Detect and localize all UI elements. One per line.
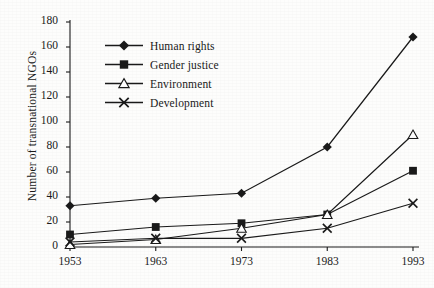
x-tick-label: 1993 [388,255,434,267]
y-tick-label: 80 [30,139,58,151]
data-point-diamond [151,194,160,203]
y-tick-label: 160 [30,39,58,51]
y-tick-label: 0 [30,239,58,251]
data-point-diamond [65,201,74,210]
legend-item-human-rights: Human rights [104,36,219,55]
data-point-square [152,223,160,231]
data-point-triangle [408,130,418,138]
y-tick-label: 120 [30,89,58,101]
x-tick-label: 1963 [131,255,181,267]
legend-label-human-rights: Human rights [150,40,215,52]
data-point-x [409,199,418,208]
y-tick-label: 40 [30,189,58,201]
legend-marker-x-icon [104,93,144,112]
y-tick-label: 100 [30,114,58,126]
legend-item-environment: Environment [104,74,219,93]
legend-item-development: Development [104,93,219,112]
legend-label-gender-justice: Gender justice [150,59,219,71]
y-tick-label: 180 [30,14,58,26]
chart-legend: Human rights Gender justice Environment … [104,36,219,112]
data-point-diamond [237,189,246,198]
x-tick-label: 1983 [302,255,352,267]
data-point-square [409,167,417,175]
x-tick-label: 1973 [217,255,267,267]
y-tick-label: 60 [30,164,58,176]
x-tick-label: 1953 [45,255,95,267]
y-tick-label: 140 [30,64,58,76]
y-tick-label: 20 [30,214,58,226]
legend-item-gender-justice: Gender justice [104,55,219,74]
chart-figure: Number of transnational NGOs Human right… [0,0,434,288]
legend-marker-square-icon [104,55,144,74]
legend-marker-diamond-icon [104,36,144,55]
data-point-square [66,231,74,239]
legend-label-development: Development [150,97,214,109]
legend-label-environment: Environment [150,78,212,90]
legend-marker-triangle-icon [104,74,144,93]
